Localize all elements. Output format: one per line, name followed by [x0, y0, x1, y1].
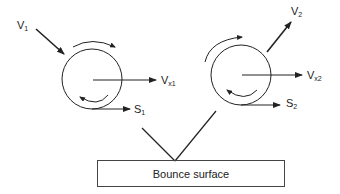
ball-1-spin-label: S1: [134, 103, 145, 116]
ball-1-velocity-arrow: [36, 29, 64, 54]
ball-2-vx-label: Vx2: [307, 69, 322, 82]
ball-2: [205, 22, 302, 105]
ball-1-velocity-label: V1: [17, 19, 28, 32]
bounce-surface-label: Bounce surface: [97, 160, 285, 187]
ball-1-circle: [62, 49, 122, 109]
ball-1-vx-label: Vx1: [161, 74, 176, 87]
ball-2-velocity-arrow: [267, 22, 291, 52]
outgoing-path-line: [175, 111, 216, 161]
ball-2-spin-arc-top: [205, 37, 242, 62]
ball-1-spin-arc-bottom: [80, 95, 108, 102]
ball-2-spin-label: S2: [286, 97, 297, 110]
ball-2-spin-arc-bottom: [227, 90, 257, 97]
ball-1-spin-arc-top: [73, 42, 115, 48]
ball-2-velocity-label: V2: [291, 5, 302, 18]
ball-1: [36, 29, 156, 109]
incoming-path-line: [142, 128, 175, 161]
